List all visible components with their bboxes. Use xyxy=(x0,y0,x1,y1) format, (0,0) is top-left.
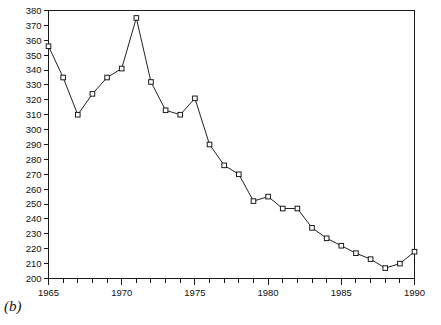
data-point-marker xyxy=(324,236,329,241)
data-point-marker xyxy=(237,172,242,177)
y-axis-tick-label: 250 xyxy=(26,198,42,209)
y-axis-tick-label: 270 xyxy=(26,169,42,180)
y-axis-tick-label: 370 xyxy=(26,20,42,31)
data-point-marker xyxy=(75,112,80,117)
line-chart: 2002102202302402502602702802903003103203… xyxy=(0,0,441,325)
x-axis-tick-label: 1990 xyxy=(404,287,425,298)
y-axis-tick-label: 300 xyxy=(26,124,42,135)
y-axis-tick-label: 360 xyxy=(26,35,42,46)
data-point-marker xyxy=(134,16,139,21)
data-point-marker xyxy=(105,75,110,80)
y-axis-tick-label: 350 xyxy=(26,50,42,61)
x-axis-tick-label: 1985 xyxy=(331,287,352,298)
data-point-marker xyxy=(398,261,403,266)
panel-label: (b) xyxy=(4,298,22,315)
y-axis-tick-label: 380 xyxy=(26,5,42,16)
data-point-marker xyxy=(46,44,51,49)
data-point-marker xyxy=(61,75,66,80)
data-point-marker xyxy=(368,257,373,262)
data-point-marker xyxy=(193,96,198,101)
y-axis-tick-label: 210 xyxy=(26,258,42,269)
x-axis-tick-label: 1975 xyxy=(184,287,205,298)
data-point-marker xyxy=(163,108,168,113)
data-point-marker xyxy=(280,206,285,211)
chart-figure: 2002102202302402502602702802903003103203… xyxy=(0,0,441,325)
x-axis-tick-label: 1965 xyxy=(38,287,59,298)
data-point-marker xyxy=(222,163,227,168)
data-point-marker xyxy=(295,206,300,211)
data-point-marker xyxy=(149,80,154,85)
y-axis-tick-label: 230 xyxy=(26,228,42,239)
y-axis-tick-label: 310 xyxy=(26,109,42,120)
y-axis-tick-label: 320 xyxy=(26,94,42,105)
data-point-marker xyxy=(310,226,315,231)
y-axis-tick-label: 200 xyxy=(26,273,42,284)
data-point-marker xyxy=(412,249,417,254)
y-axis-tick-label: 220 xyxy=(26,243,42,254)
x-axis-tick-label: 1970 xyxy=(111,287,132,298)
data-point-marker xyxy=(266,194,271,199)
y-axis-tick-label: 330 xyxy=(26,79,42,90)
x-axis-tick-label: 1980 xyxy=(258,287,279,298)
data-point-marker xyxy=(251,199,256,204)
y-axis-tick-label: 240 xyxy=(26,213,42,224)
data-point-marker xyxy=(383,266,388,271)
y-axis-tick-label: 260 xyxy=(26,184,42,195)
data-point-marker xyxy=(90,92,95,97)
y-axis-tick-label: 340 xyxy=(26,64,42,75)
data-point-marker xyxy=(354,251,359,256)
data-point-marker xyxy=(339,243,344,248)
plot-background xyxy=(0,0,441,325)
data-point-marker xyxy=(178,112,183,117)
data-point-marker xyxy=(207,142,212,147)
data-point-marker xyxy=(119,66,124,71)
y-axis-tick-label: 280 xyxy=(26,154,42,165)
y-axis-tick-label: 290 xyxy=(26,139,42,150)
